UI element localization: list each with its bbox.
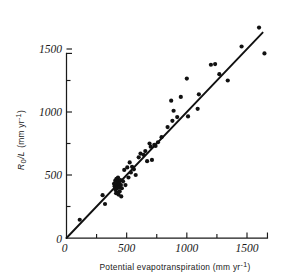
data-point [239, 44, 243, 48]
x-tick-label: 1500 [236, 242, 259, 254]
data-point [226, 78, 230, 82]
data-point [175, 115, 179, 119]
data-point [103, 202, 107, 206]
data-point [141, 153, 145, 157]
regression-line [67, 33, 263, 238]
plot-canvas: 050010001500 050010001500 Potential evap… [0, 0, 304, 280]
x-axis-ticks [97, 233, 268, 239]
data-point [153, 144, 157, 148]
data-point [134, 173, 138, 177]
data-point [179, 95, 183, 99]
data-point [145, 159, 149, 163]
y-tick-label: 500 [45, 169, 63, 181]
x-tick-label: 500 [118, 242, 136, 254]
data-layer [67, 25, 267, 238]
data-point [213, 62, 217, 66]
data-point [165, 125, 169, 129]
data-point [150, 158, 154, 162]
data-point [171, 109, 175, 113]
data-point [170, 119, 174, 123]
y-tick-label: 1500 [39, 43, 62, 55]
y-axis-tick-labels: 050010001500 [39, 43, 62, 245]
data-point [197, 92, 201, 96]
data-point [121, 179, 125, 183]
data-point [119, 194, 123, 198]
data-point [78, 218, 82, 222]
data-point [185, 77, 189, 81]
data-point [209, 63, 213, 67]
data-point [262, 51, 266, 55]
y-axis-ticks [67, 49, 73, 207]
data-point [196, 107, 200, 111]
x-tick-label: 1000 [175, 242, 198, 254]
x-axis-tick-labels: 050010001500 [62, 242, 259, 254]
data-point [217, 72, 221, 76]
data-point [101, 193, 105, 197]
data-point [123, 183, 127, 187]
data-point [125, 165, 129, 169]
data-point [132, 167, 136, 171]
data-point [120, 186, 124, 190]
x-tick-label: 0 [62, 242, 68, 254]
data-point [257, 25, 261, 29]
scatter-points [78, 25, 267, 221]
data-point [186, 114, 190, 118]
scatter-plot-figure: 050010001500 050010001500 Potential evap… [0, 0, 304, 280]
data-point [137, 155, 141, 159]
data-point [143, 149, 147, 153]
data-point [149, 145, 153, 149]
data-point [156, 140, 160, 144]
y-tick-label: 1000 [39, 106, 62, 118]
data-point [126, 175, 130, 179]
y-axis-title: R0/L (mm yr-1) [15, 110, 29, 170]
data-point [129, 170, 133, 174]
x-axis-title: Potential evapotranspiration (mm yr-1) [99, 261, 250, 272]
data-point [159, 135, 163, 139]
data-point [169, 99, 173, 103]
data-point [128, 160, 132, 164]
